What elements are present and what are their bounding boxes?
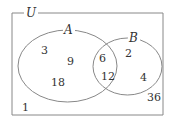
element-36: 36 bbox=[147, 91, 161, 104]
element-12: 12 bbox=[101, 70, 115, 83]
set-a-label: A bbox=[63, 23, 73, 37]
set-b-label: B bbox=[128, 31, 138, 45]
universe-rectangle bbox=[12, 13, 163, 115]
element-6: 6 bbox=[99, 52, 106, 65]
element-4: 4 bbox=[140, 71, 147, 84]
element-18: 18 bbox=[51, 76, 65, 89]
element-2: 2 bbox=[125, 47, 132, 60]
element-9: 9 bbox=[67, 55, 74, 68]
universe-label: U bbox=[26, 6, 37, 20]
venn-diagram: U A B 3 9 18 6 12 2 4 1 36 bbox=[0, 0, 176, 120]
element-1: 1 bbox=[22, 101, 29, 114]
element-3: 3 bbox=[41, 44, 48, 57]
